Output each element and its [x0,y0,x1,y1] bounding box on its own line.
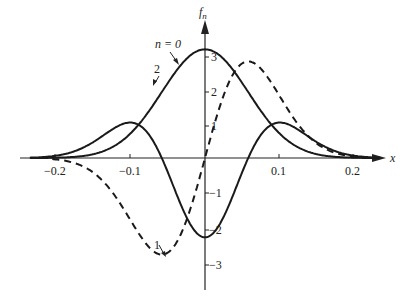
hermite-function-chart: x fn −0.2 −0.1 0.1 0.2 3 2 1 −1 −2 −3 n … [0,0,404,302]
x-tick-label: −0.2 [44,164,66,178]
annotation-n2: 2 [154,62,160,76]
y-tick-label: 2 [211,85,217,99]
x-axis-label: x [389,151,396,165]
annotation-n0: n = 0 [155,37,181,51]
y-axis-label: fn [199,5,207,21]
x-tick-label: −0.1 [119,164,141,178]
y-tick-label: −1 [209,186,222,200]
y-axis-arrow-icon [201,20,209,34]
y-tick-label: −3 [209,258,222,272]
x-tick-label: 0.2 [345,164,360,178]
y-ticks: 3 2 1 −1 −2 −3 [205,50,222,272]
annotation-n0-arrowhead-icon [173,58,179,65]
annotation-n1-arrowhead-icon [161,251,166,257]
y-axis-label-sub: n [202,11,207,21]
x-tick-label: 0.1 [271,164,286,178]
